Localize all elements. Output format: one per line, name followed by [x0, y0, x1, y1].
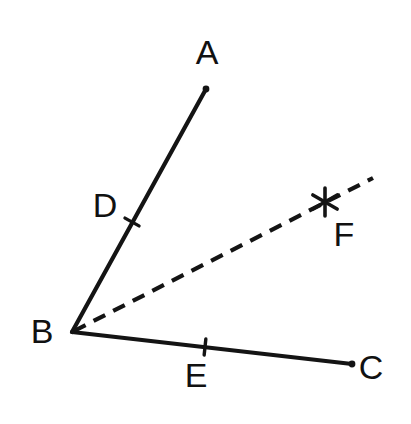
point-label-B: B	[31, 314, 54, 348]
point-label-E: E	[185, 358, 208, 392]
tick-mark-E	[204, 339, 206, 355]
geometry-diagram-canvas: A B C D E F	[0, 0, 411, 424]
point-label-D: D	[93, 188, 118, 222]
endpoint-dot-C	[349, 361, 356, 368]
ray-BC	[72, 332, 352, 364]
point-label-C: C	[359, 350, 384, 384]
endpoint-dot-A	[203, 86, 210, 93]
point-label-A: A	[196, 35, 219, 69]
point-label-F: F	[334, 217, 355, 251]
asterisk-marker-icon	[313, 188, 337, 216]
